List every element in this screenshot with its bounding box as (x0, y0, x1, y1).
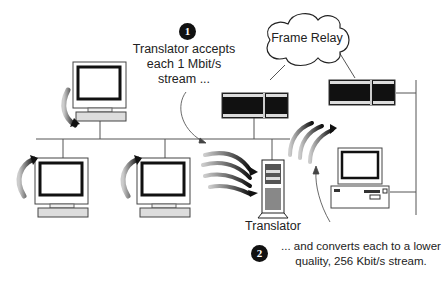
translator-server (258, 160, 288, 218)
step-1-line-3: stream ... (128, 72, 240, 87)
stream-arrows-out-of-translator (290, 123, 337, 162)
step-2-line-1: ... and converts each to a lower (278, 239, 444, 254)
step-1-caption: Translator accepts each 1 Mbit/s stream … (128, 42, 240, 87)
router-left (222, 93, 288, 118)
translator-label: Translator (243, 219, 303, 234)
step-2-caption: ... and converts each to a lower quality… (278, 239, 444, 269)
step-1-line-2: each 1 Mbit/s (128, 57, 240, 72)
workstation-bottom-middle (137, 158, 190, 217)
workstation-top-left (73, 62, 126, 121)
step-2-line-2: quality, 256 Kbit/s stream. (278, 254, 444, 269)
stream-arrows-into-translator (203, 153, 258, 197)
router-right (329, 80, 395, 105)
step-1-line-1: Translator accepts (128, 42, 240, 57)
step-1-badge: 1 (179, 23, 196, 40)
workstation-bottom-left (35, 158, 88, 217)
desktop-right (331, 148, 389, 208)
step-2-badge: 2 (251, 245, 268, 262)
frame-relay-label: Frame Relay (262, 31, 352, 46)
